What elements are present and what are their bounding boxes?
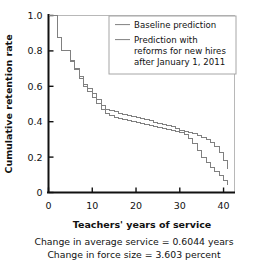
- y-axis-title: Cumulative retention rate: [3, 34, 14, 173]
- annotation-force-size: Change in force size = 3.603 percent: [47, 249, 221, 260]
- legend-label-1: reforms for new hires: [134, 46, 226, 56]
- x-tick-label: 30: [174, 200, 186, 211]
- legend-label-1: after January 1, 2011: [134, 57, 225, 67]
- x-tick-label: 40: [218, 200, 230, 211]
- retention-rate-chart: 00.20.40.60.81.0 010203040 Baseline pred…: [0, 0, 266, 270]
- x-tick-label: 0: [45, 200, 51, 211]
- x-axis: [47, 188, 235, 193]
- x-tick-label: 10: [86, 200, 98, 211]
- annotation-average-service: Change in average service = 0.6044 years: [34, 236, 233, 247]
- y-tick-label: 1.0: [27, 10, 42, 21]
- y-tick-label: 0.6: [27, 81, 42, 92]
- chart-legend: Baseline predictionPrediction withreform…: [109, 16, 236, 74]
- chart-figure: 00.20.40.60.81.0 010203040 Baseline pred…: [0, 0, 266, 270]
- y-tick-label: 0: [36, 187, 42, 198]
- y-tick-labels: 00.20.40.60.81.0: [27, 10, 42, 198]
- y-axis: [49, 14, 54, 193]
- x-tick-labels: 010203040: [45, 200, 229, 211]
- x-axis-title: Teachers' years of service: [73, 219, 211, 230]
- legend-label-0: Baseline prediction: [134, 20, 216, 30]
- y-tick-label: 0.8: [27, 45, 42, 56]
- y-tick-label: 0.2: [27, 152, 42, 163]
- legend-label-1: Prediction with: [134, 35, 198, 45]
- x-tick-label: 20: [130, 200, 142, 211]
- y-tick-label: 0.4: [27, 116, 42, 127]
